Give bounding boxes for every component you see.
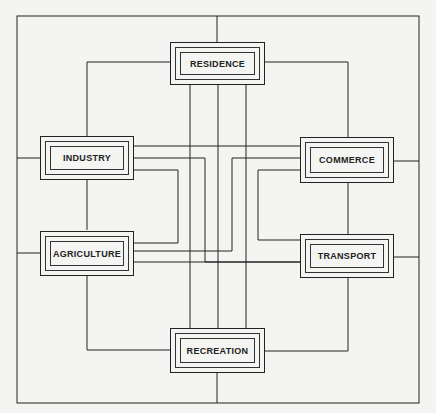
node-inner-frame: INDUSTRY: [50, 146, 124, 170]
node-label: RECREATION: [187, 346, 249, 356]
node-label: TRANSPORT: [318, 251, 377, 261]
node-label: RESIDENCE: [190, 59, 245, 69]
node-label: INDUSTRY: [63, 153, 111, 163]
node-frame: COMMERCE: [305, 142, 389, 178]
node-frame: RECREATION: [175, 333, 260, 368]
node-frame: TRANSPORT: [305, 239, 389, 273]
node-inner-frame: COMMERCE: [310, 147, 384, 173]
node-transport: TRANSPORT: [300, 234, 394, 278]
node-frame: AGRICULTURE: [45, 236, 129, 271]
node-inner-frame: TRANSPORT: [310, 244, 384, 268]
node-inner-frame: RESIDENCE: [180, 52, 255, 75]
node-frame: INDUSTRY: [45, 141, 129, 175]
node-inner-frame: RECREATION: [180, 338, 255, 363]
node-frame: RESIDENCE: [175, 47, 260, 80]
node-label: AGRICULTURE: [53, 249, 121, 259]
node-inner-frame: AGRICULTURE: [50, 241, 124, 266]
node-industry: INDUSTRY: [40, 136, 134, 180]
node-commerce: COMMERCE: [300, 137, 394, 183]
node-recreation: RECREATION: [170, 328, 265, 373]
node-agriculture: AGRICULTURE: [40, 231, 134, 276]
node-label: COMMERCE: [319, 155, 375, 165]
node-residence: RESIDENCE: [170, 42, 265, 85]
